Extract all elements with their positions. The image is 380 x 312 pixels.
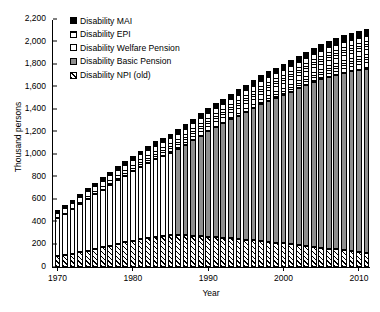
bar-2006 [326,41,332,267]
x-tick-mark [132,267,133,271]
x-tick-label: 2000 [274,273,293,283]
bar-segment-disability-npi-old [356,252,362,267]
y-tick-label: 600 [32,193,46,203]
bar-segment-disability-npi-old [341,250,347,267]
y-tick-label: 200 [32,238,46,248]
bar-segment-disability-npi-old [303,246,309,267]
bar-segment-disability-epi [281,69,287,95]
bar-segment-disability-welfare-pension [62,214,68,255]
legend-item-disability-welfare-pension: Disability Welfare Pension [70,41,180,55]
bar-2003 [303,52,309,267]
bar-segment-disability-npi-old [266,242,272,267]
bar-segment-disability-epi [145,149,151,163]
y-tick-mark [53,63,57,64]
bar-segment-disability-welfare-pension [115,180,121,244]
bar-segment-disability-epi [251,85,257,108]
bar-1991 [213,103,219,267]
bar-segment-disability-basic-pension [281,95,287,244]
bar-segment-disability-epi [236,94,242,116]
legend-item-disability-basic-pension: Disability Basic Pension [70,55,180,69]
bar-segment-disability-epi [303,57,309,85]
bar-segment-disability-basic-pension [190,140,196,235]
y-tick-label: 1,000 [25,148,46,158]
bar-2005 [318,44,324,267]
bar-segment-disability-epi [77,196,83,204]
bar-segment-disability-epi [273,72,279,97]
bar-segment-disability-epi [198,117,204,136]
bar-segment-disability-basic-pension [303,85,309,246]
x-tick-mark [283,267,284,271]
y-tick-label: 800 [32,170,46,180]
bar-segment-disability-npi-old [213,237,219,267]
bar-segment-disability-epi [296,61,302,89]
bar-segment-disability-epi [356,37,362,70]
bar-1987 [183,124,189,267]
bar-segment-disability-epi [183,128,189,145]
bar-segment-disability-welfare-pension [130,171,136,241]
x-tick-mark [358,267,359,271]
bar-segment-disability-welfare-pension [138,167,144,240]
x-tick-mark [208,267,209,271]
bar-segment-disability-basic-pension [341,73,347,251]
bar-segment-disability-epi [333,44,339,75]
bar-segment-disability-basic-pension [175,149,181,235]
bar-segment-disability-epi [228,98,234,119]
bar-segment-disability-npi-old [364,253,370,267]
bar-segment-disability-basic-pension [318,79,324,248]
bar-1985 [168,134,174,267]
bar-1994 [236,89,242,267]
legend-item-disability-mai: Disability MAI [70,14,180,28]
y-tick-mark [53,18,57,19]
y-tick-mark [53,131,57,132]
bar-segment-disability-epi [153,145,159,160]
bar-segment-disability-epi [138,153,144,166]
bar-segment-disability-npi-old [160,236,166,267]
y-tick-mark [53,221,57,222]
bar-1983 [153,141,159,267]
bar-1981 [138,151,144,267]
bar-segment-disability-basic-pension [228,119,234,238]
bar-segment-disability-basic-pension [205,131,211,236]
bar-segment-disability-npi-old [258,241,264,267]
bar-segment-disability-basic-pension [183,145,189,235]
bar-1982 [145,146,151,267]
bar-segment-disability-epi [115,169,121,180]
bar-segment-disability-npi-old [85,251,91,267]
bar-segment-disability-epi [100,180,106,190]
bar-2004 [311,48,317,267]
y-tick-label: 400 [32,215,46,225]
bar-1972 [70,200,76,267]
bar-segment-disability-basic-pension [288,92,294,245]
bar-segment-disability-epi [318,50,324,80]
bar-segment-disability-basic-pension [364,69,370,253]
bar-segment-disability-epi [288,65,294,92]
bar-1989 [198,113,204,267]
y-axis-title: Thousand persons [13,67,23,207]
bar-segment-disability-basic-pension [273,98,279,243]
bar-segment-disability-basic-pension [333,75,339,250]
bar-segment-disability-npi-old [100,247,106,267]
bar-segment-disability-npi-old [205,237,211,267]
bar-segment-disability-basic-pension [258,104,264,241]
bar-segment-disability-epi [213,107,219,127]
bar-1973 [77,194,83,267]
bar-1993 [228,94,234,267]
legend-swatch-icon [70,31,77,38]
y-tick-label: 1,400 [25,103,46,113]
bar-segment-disability-welfare-pension [70,209,76,254]
y-tick-mark [53,243,57,244]
bar-segment-disability-npi-old [70,254,76,267]
bar-segment-disability-basic-pension [220,123,226,237]
bar-segment-disability-basic-pension [236,116,242,239]
bar-segment-disability-npi-old [145,238,151,267]
bar-2001 [288,60,294,267]
x-tick-mark [57,267,58,271]
bar-segment-disability-basic-pension [326,77,332,249]
bar-1984 [160,138,166,267]
bar-1970 [55,210,61,267]
bar-segment-disability-basic-pension [356,70,362,253]
bar-segment-disability-npi-old [168,235,174,267]
bar-segment-disability-welfare-pension [100,190,106,248]
bar-segment-disability-welfare-pension [160,156,166,236]
bar-segment-disability-npi-old [243,240,249,267]
